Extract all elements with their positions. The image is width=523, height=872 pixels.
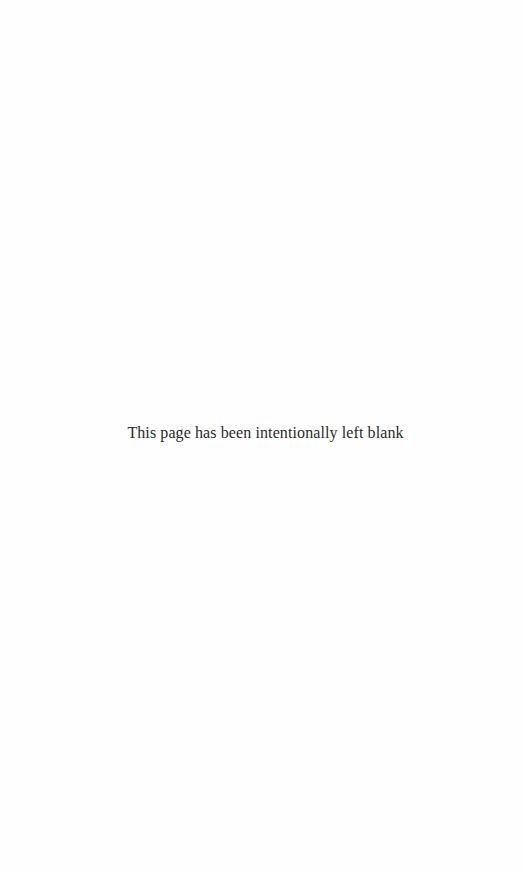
intentionally-blank-notice: This page has been intentionally left bl… xyxy=(0,423,523,443)
blank-page: This page has been intentionally left bl… xyxy=(0,0,523,872)
